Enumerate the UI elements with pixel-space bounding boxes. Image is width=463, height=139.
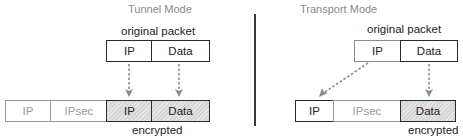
arrows-layer (0, 0, 463, 139)
tunnel-ip-arrow-icon (125, 64, 133, 97)
transport-data-arrow-icon (425, 64, 433, 97)
transport-ip-arrow-icon (319, 63, 368, 97)
tunnel-data-arrow-icon (175, 64, 183, 97)
